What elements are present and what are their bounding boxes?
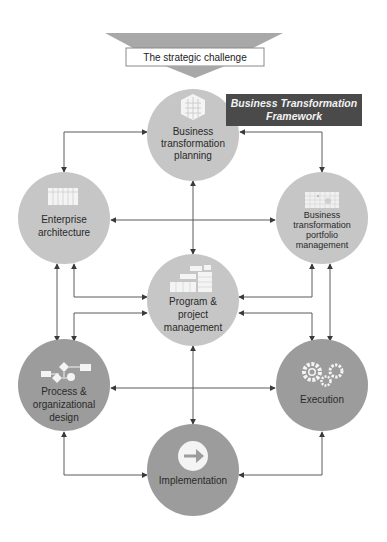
node-implementation[interactable]: Implementation: [147, 424, 239, 516]
node-label-line: Process &: [41, 386, 87, 397]
strategic-challenge-label: The strategic challenge: [143, 52, 247, 63]
node-label-line: design: [49, 412, 78, 423]
funnel-shape: [105, 33, 283, 48]
node-label-line: Implementation: [159, 475, 227, 486]
node-label-line: management: [296, 240, 349, 250]
node-label-line: architecture: [38, 227, 91, 238]
node-label-line: portfolio: [306, 230, 338, 240]
node-label-line: Business: [304, 210, 341, 220]
node-business-transformation-portfolio-management[interactable]: Business transformation portfolio manage…: [276, 172, 368, 264]
framework-banner: Business Transformation Framework: [226, 94, 362, 126]
node-label-line: management: [164, 322, 223, 333]
portfolio-matrix-icon: [305, 192, 339, 208]
node-business-transformation-planning[interactable]: Business transformation planning: [147, 89, 239, 181]
node-label-line: transformation: [161, 138, 225, 149]
node-program-project-management[interactable]: Program & project management: [147, 254, 239, 346]
arrow-right-circle-icon: [178, 441, 208, 471]
node-label-line: planning: [174, 150, 212, 161]
node-enterprise-architecture[interactable]: Enterprise architecture: [18, 172, 110, 264]
node-process-organizational-design[interactable]: Process & organizational design: [18, 339, 110, 431]
table-grid-icon: [48, 188, 78, 205]
strategic-challenge-header: The strategic challenge: [105, 33, 283, 78]
node-label-line: transformation: [293, 220, 351, 230]
node-label-line: Program &: [169, 296, 217, 307]
framework-title-line1: Business Transformation: [231, 97, 357, 109]
node-label-line: Enterprise: [41, 214, 87, 225]
node-label-line: project: [178, 309, 208, 320]
node-label-line: Business: [173, 126, 214, 137]
node-label-line: Execution: [300, 394, 344, 405]
node-execution[interactable]: Execution: [276, 339, 368, 431]
framework-title-line2: Framework: [266, 110, 323, 122]
node-label-line: organizational: [33, 399, 95, 410]
business-transformation-framework-diagram: The strategic challenge: [0, 0, 387, 542]
funnel-tip: [165, 66, 225, 78]
